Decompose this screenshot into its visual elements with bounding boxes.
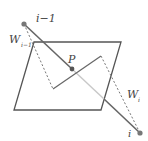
w-prev-projection bbox=[53, 56, 101, 89]
label-w-curr-sub: i bbox=[138, 96, 140, 103]
label-w-prev-sub: i−1 bbox=[21, 41, 32, 48]
point-prev bbox=[21, 21, 26, 26]
label-point-i: i bbox=[128, 128, 131, 139]
point-i bbox=[137, 130, 142, 135]
w-prev-dashed bbox=[24, 24, 53, 89]
label-p: P bbox=[67, 53, 76, 66]
ray-segment-back bbox=[104, 99, 140, 133]
point-p bbox=[70, 67, 75, 72]
diagram-canvas: i−1 i P W i−1 W i bbox=[0, 0, 148, 141]
ray-segment-hidden bbox=[72, 69, 104, 99]
label-prev-point: i−1 bbox=[36, 12, 56, 25]
